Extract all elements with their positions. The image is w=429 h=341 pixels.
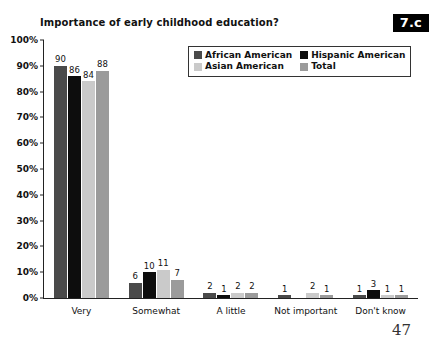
x-axis-tick-label: Not important xyxy=(274,306,337,316)
bar[interactable]: 1 xyxy=(381,295,394,298)
bar-slot: 1 xyxy=(395,40,408,298)
bar[interactable]: 1 xyxy=(395,295,408,298)
section-badge: 7.c xyxy=(393,14,429,32)
bar[interactable]: 2 xyxy=(245,293,258,298)
bar-group: 1311 xyxy=(343,40,418,298)
legend-item[interactable]: African American xyxy=(194,50,292,60)
page-title: Importance of early childhood education? xyxy=(40,17,279,28)
bar-value-label: 90 xyxy=(55,55,66,66)
bar-value-label: 2 xyxy=(207,282,212,293)
bar-slot: 1 xyxy=(278,40,291,298)
legend-swatch-icon xyxy=(194,51,202,59)
chart-legend: African AmericanHispanic AmericanAsian A… xyxy=(188,46,411,77)
bar-value-label: 10 xyxy=(144,262,155,273)
bar[interactable]: 2 xyxy=(203,293,216,298)
legend-item[interactable]: Total xyxy=(300,61,405,71)
bar[interactable]: 3 xyxy=(367,290,380,298)
bar-value-label: 2 xyxy=(249,282,254,293)
bar-slot xyxy=(292,40,305,298)
bar-group: 121 xyxy=(268,40,343,298)
x-axis-tick-label: Don't know xyxy=(355,306,406,316)
bar-value-label: 86 xyxy=(69,66,80,77)
bar-group: 2122 xyxy=(194,40,269,298)
bar-value-label: 1 xyxy=(399,285,404,296)
legend-item[interactable]: Asian American xyxy=(194,61,292,71)
bar-slot: 11 xyxy=(157,40,170,298)
bar-slot: 2 xyxy=(245,40,258,298)
bar-slot: 6 xyxy=(129,40,142,298)
bar-slot: 2 xyxy=(306,40,319,298)
bar-slot: 10 xyxy=(143,40,156,298)
bar-value-label: 3 xyxy=(371,280,376,291)
bar[interactable]: 2 xyxy=(306,293,319,298)
legend-swatch-icon xyxy=(300,63,308,71)
bar-value-label: 1 xyxy=(221,285,226,296)
plot-area: 100%90%80%70%60%50%40%30%20%10%0% 908684… xyxy=(43,40,418,299)
bar[interactable]: 90 xyxy=(54,66,67,298)
bar-value-label: 2 xyxy=(310,282,315,293)
bar-slot: 90 xyxy=(54,40,67,298)
bar[interactable]: 10 xyxy=(143,272,156,298)
bar-slot: 1 xyxy=(381,40,394,298)
bar[interactable]: 1 xyxy=(217,295,230,298)
bar-slot: 2 xyxy=(203,40,216,298)
bar-value-label: 1 xyxy=(324,285,329,296)
bar-value-label: 88 xyxy=(97,60,108,71)
bar-slot: 1 xyxy=(320,40,333,298)
bar-value-label: 7 xyxy=(174,269,179,280)
bar-slot: 88 xyxy=(96,40,109,298)
page-number: 47 xyxy=(392,321,411,339)
legend-item-label: Hispanic American xyxy=(311,50,405,60)
y-axis-tick-label: 100% xyxy=(10,35,44,45)
bar[interactable]: 1 xyxy=(353,295,366,298)
legend-item-label: Asian American xyxy=(205,61,284,71)
bar-group: 90868488 xyxy=(44,40,119,298)
bar-value-label: 1 xyxy=(357,285,362,296)
bar[interactable]: 6 xyxy=(129,283,142,298)
legend-swatch-icon xyxy=(300,51,308,59)
bar-slot: 84 xyxy=(82,40,95,298)
legend-swatch-icon xyxy=(194,63,202,71)
bar-value-label: 6 xyxy=(132,272,137,283)
bar-value-label: 1 xyxy=(282,285,287,296)
bar[interactable]: 1 xyxy=(320,295,333,298)
legend-item[interactable]: Hispanic American xyxy=(300,50,405,60)
bar[interactable]: 84 xyxy=(82,81,95,298)
x-axis-tick-label: Somewhat xyxy=(132,306,180,316)
x-axis-tick-label: A little xyxy=(216,306,245,316)
bar-slot: 1 xyxy=(353,40,366,298)
bar-value-label: 2 xyxy=(235,282,240,293)
bars-layer: 9086848861011721221211311 xyxy=(44,40,418,298)
bar-group: 610117 xyxy=(119,40,194,298)
legend-item-label: Total xyxy=(311,61,336,71)
x-axis-tick-label: Very xyxy=(71,306,91,316)
bar-slot: 86 xyxy=(68,40,81,298)
bar[interactable]: 7 xyxy=(171,280,184,298)
bar-slot: 1 xyxy=(217,40,230,298)
bar[interactable]: 88 xyxy=(96,71,109,298)
bar[interactable]: 11 xyxy=(157,270,170,298)
bar-slot: 7 xyxy=(171,40,184,298)
bar-value-label: 84 xyxy=(83,71,94,82)
bar-value-label: 1 xyxy=(385,285,390,296)
bar-slot: 3 xyxy=(367,40,380,298)
bar[interactable]: 86 xyxy=(68,76,81,298)
bar[interactable]: 1 xyxy=(278,295,291,298)
bar-value-label: 11 xyxy=(158,259,169,270)
bar-slot: 2 xyxy=(231,40,244,298)
legend-item-label: African American xyxy=(205,50,292,60)
bar[interactable]: 2 xyxy=(231,293,244,298)
